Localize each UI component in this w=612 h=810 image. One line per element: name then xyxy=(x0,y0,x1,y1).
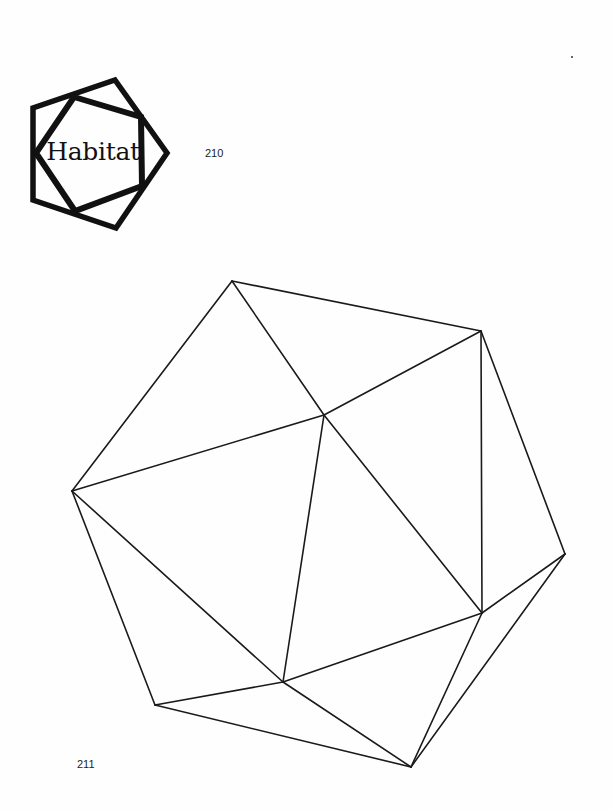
figure-edge xyxy=(72,491,155,705)
figure-edge xyxy=(283,613,482,682)
figure-edge xyxy=(481,331,565,554)
figure-edge xyxy=(155,682,283,705)
figure-edge xyxy=(232,281,324,415)
icosahedron-figure xyxy=(0,0,612,810)
book-page: Habitat 210 211 xyxy=(0,0,612,810)
page-number-bottom: 211 xyxy=(77,758,95,770)
figure-edge xyxy=(283,682,411,767)
figure-edge xyxy=(155,705,411,767)
figure-edge xyxy=(72,415,324,491)
figure-edge xyxy=(482,554,565,613)
figure-edge xyxy=(324,331,481,415)
figure-edge xyxy=(283,415,324,682)
print-speck xyxy=(571,56,573,58)
figure-edge xyxy=(411,613,482,767)
figure-edge xyxy=(72,491,283,682)
figure-edge xyxy=(324,415,482,613)
figure-edge xyxy=(481,331,482,613)
figure-edge xyxy=(232,281,481,331)
figure-edge xyxy=(411,554,565,767)
figure-edge xyxy=(72,281,232,491)
